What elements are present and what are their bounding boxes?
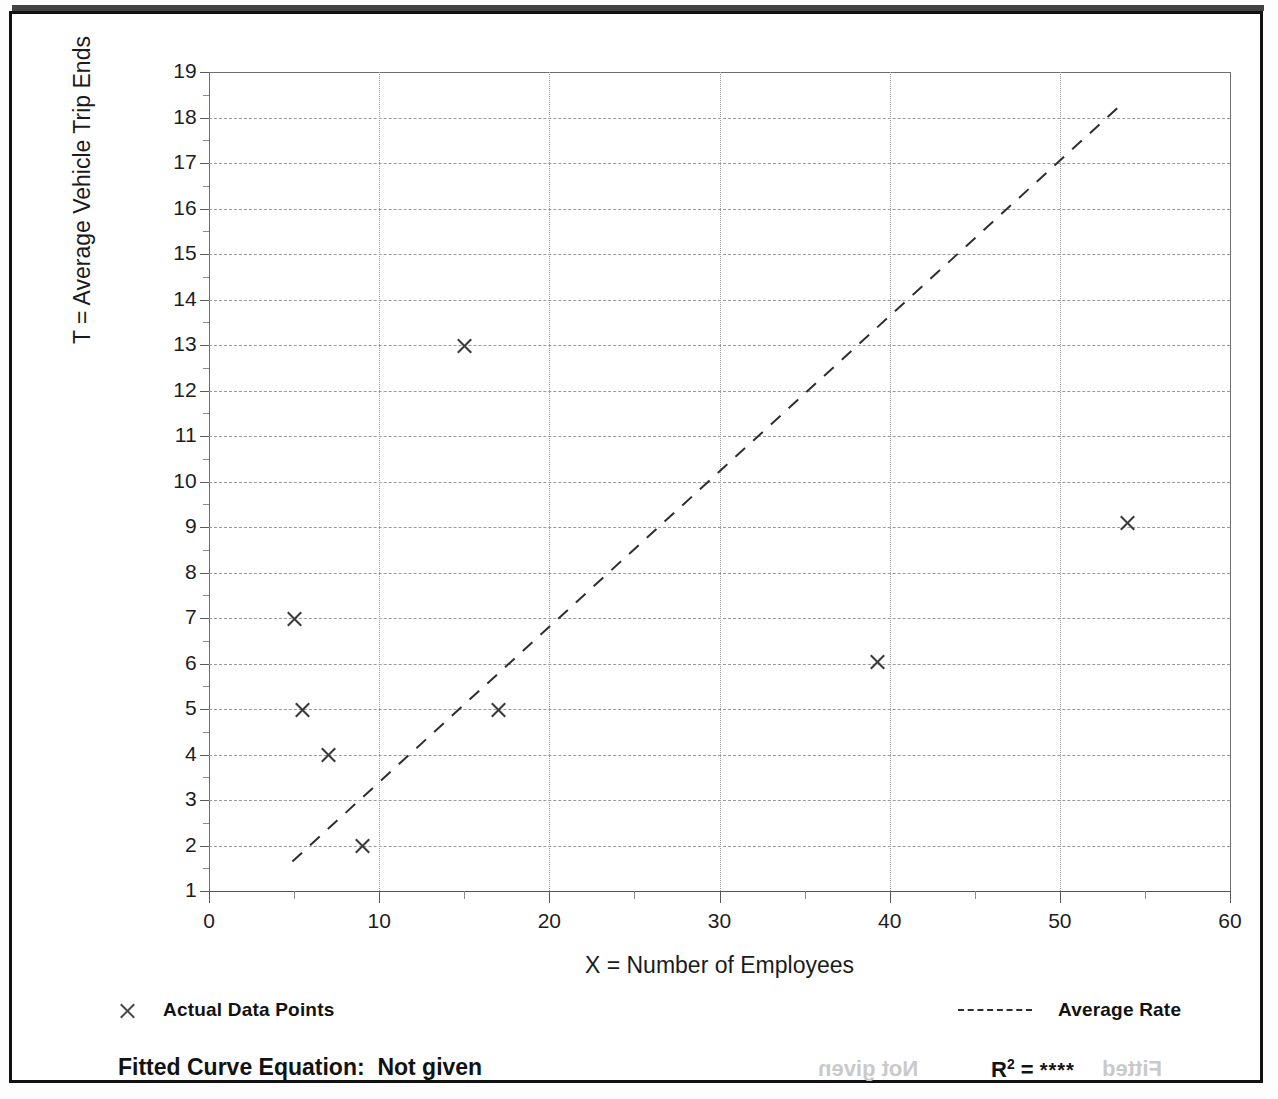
- y-tick-major: [200, 527, 209, 528]
- r-squared-exponent: 2: [1007, 1056, 1015, 1072]
- data-point-marker: [319, 745, 338, 764]
- x-tick-major: [1060, 891, 1061, 903]
- data-point-marker: [455, 336, 474, 355]
- data-point-marker: [285, 609, 304, 628]
- data-point-marker: [293, 700, 312, 719]
- y-tick-label: 12: [151, 378, 197, 402]
- x-tick-label: 30: [690, 909, 750, 933]
- x-tick-label: 50: [1030, 909, 1090, 933]
- y-tick-label: 6: [151, 651, 197, 675]
- y-tick-major: [200, 482, 209, 483]
- legend-entry-actual-data-points: Actual Data Points: [118, 999, 334, 1021]
- x-tick-minor: [634, 891, 635, 899]
- r-squared-annotation: R2 = ****: [991, 1056, 1075, 1083]
- y-tick-label: 7: [151, 605, 197, 629]
- y-tick-label: 18: [151, 105, 197, 129]
- y-tick-major: [200, 755, 209, 756]
- r-squared-equals: =: [1015, 1057, 1040, 1082]
- plot-area: [209, 72, 1230, 891]
- y-tick-major: [200, 664, 209, 665]
- y-tick-label: 4: [151, 742, 197, 766]
- scanned-page: Not given Fitted 12345678910111213141516…: [0, 0, 1278, 1099]
- y-tick-label: 16: [151, 196, 197, 220]
- y-axis-title: T = Average Vehicle Trip Ends: [69, 0, 96, 344]
- y-tick-label: 15: [151, 241, 197, 265]
- y-tick-major: [200, 709, 209, 710]
- x-tick-label: 10: [349, 909, 409, 933]
- plot-border-right: [1230, 72, 1231, 891]
- y-tick-label: 19: [151, 59, 197, 83]
- legend-label-average-rate: Average Rate: [1058, 999, 1181, 1021]
- figure-frame: Not given Fitted 12345678910111213141516…: [9, 11, 1263, 1083]
- y-tick-label: 9: [151, 514, 197, 538]
- data-point-marker: [1118, 513, 1137, 532]
- y-tick-major: [200, 846, 209, 847]
- x-marker-icon: [118, 1001, 137, 1020]
- x-tick-major: [379, 891, 380, 903]
- y-tick-label: 10: [151, 469, 197, 493]
- x-tick-label: 0: [179, 909, 239, 933]
- figure-footnotes: Fitted Curve Equation: Not given R2 = **…: [118, 1054, 1188, 1094]
- data-point-marker: [868, 652, 887, 671]
- x-tick-label: 60: [1200, 909, 1260, 933]
- x-axis-title: X = Number of Employees: [209, 952, 1230, 979]
- r-squared-symbol: R: [991, 1057, 1007, 1082]
- x-tick-major: [720, 891, 721, 903]
- x-tick-minor: [464, 891, 465, 899]
- x-tick-minor: [805, 891, 806, 899]
- y-tick-major: [200, 391, 209, 392]
- y-tick-major: [200, 300, 209, 301]
- x-tick-minor: [975, 891, 976, 899]
- y-tick-major: [200, 254, 209, 255]
- y-tick-label: 3: [151, 787, 197, 811]
- y-tick-major: [200, 72, 209, 73]
- x-tick-minor: [294, 891, 295, 899]
- y-tick-label: 5: [151, 696, 197, 720]
- y-tick-major: [200, 618, 209, 619]
- y-tick-major: [200, 163, 209, 164]
- y-tick-major: [200, 345, 209, 346]
- data-point-marker: [353, 836, 372, 855]
- y-tick-label: 2: [151, 833, 197, 857]
- y-tick-label: 8: [151, 560, 197, 584]
- chart-legend: Actual Data Points Average Rate: [118, 999, 1188, 1033]
- y-tick-label: 11: [151, 423, 197, 447]
- x-tick-major: [209, 891, 210, 903]
- y-tick-major: [200, 436, 209, 437]
- y-tick-major: [200, 800, 209, 801]
- average-rate-trendline: [209, 72, 1230, 891]
- x-tick-label: 20: [519, 909, 579, 933]
- y-tick-label: 1: [151, 878, 197, 902]
- x-tick-minor: [1145, 891, 1146, 899]
- y-tick-major: [200, 209, 209, 210]
- x-tick-major: [890, 891, 891, 903]
- y-tick-major: [200, 891, 209, 892]
- legend-entry-average-rate: Average Rate: [958, 999, 1181, 1021]
- y-tick-major: [200, 118, 209, 119]
- dashed-line-icon: [958, 1009, 1032, 1011]
- y-tick-label: 17: [151, 150, 197, 174]
- legend-label-actual-data-points: Actual Data Points: [163, 999, 334, 1021]
- x-tick-major: [549, 891, 550, 903]
- y-tick-label: 14: [151, 287, 197, 311]
- y-tick-major: [200, 573, 209, 574]
- r-squared-value: ****: [1040, 1059, 1075, 1081]
- fitted-curve-equation: Fitted Curve Equation: Not given: [118, 1054, 482, 1081]
- x-tick-label: 40: [860, 909, 920, 933]
- y-tick-label: 13: [151, 332, 197, 356]
- x-tick-major: [1230, 891, 1231, 903]
- data-point-marker: [489, 700, 508, 719]
